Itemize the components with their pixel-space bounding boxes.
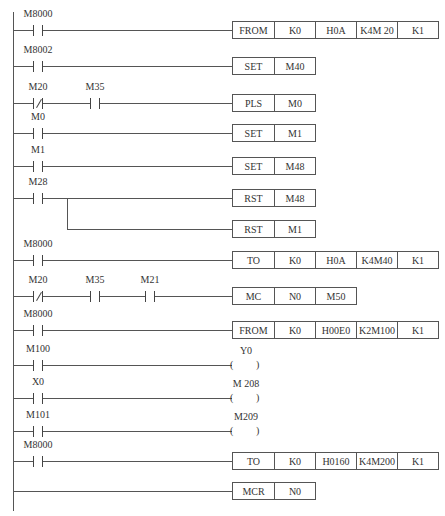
instruction-operand: M1 [274,221,315,237]
instruction-block-rst[interactable]: RSTM48 [232,189,316,207]
contact-bar-right [42,161,43,172]
contact-label: M8000 [24,308,53,319]
instruction-block-to[interactable]: TOK0H0160K4M200K1 [232,452,439,470]
contact-bar-left [145,291,146,302]
contact-bar-left [33,291,34,302]
contact-label: M1 [31,144,45,155]
normally-open-contact-icon[interactable] [33,393,43,404]
instruction-block-from[interactable]: FROMK0H00E0K2M100K1 [232,321,439,339]
contact-label: M100 [26,343,50,354]
contact-label: M8000 [24,439,53,450]
contact-bar-left [33,255,34,266]
instruction-operand: K4M 20 [356,22,397,38]
instruction-block-rst[interactable]: RSTM1 [232,220,316,238]
rung-wire [13,260,232,261]
instruction-operand: H0A [315,22,356,38]
contact-bar-right [42,456,43,467]
normally-open-contact-icon[interactable] [33,61,43,72]
contact-bar-right [42,255,43,266]
normally-open-contact-icon[interactable] [145,291,155,302]
instruction-block-set[interactable]: SETM40 [232,57,316,75]
contact-bar-left [33,325,34,336]
normally-open-contact-icon[interactable] [33,360,43,371]
instruction-mnemonic: PLS [233,95,274,111]
output-coil-icon[interactable]: () [230,359,262,371]
normally-open-contact-icon[interactable] [33,128,43,139]
instruction-operand: M40 [274,58,315,74]
rung-wire [13,398,232,399]
instruction-block-mcr[interactable]: MCRN0 [232,482,316,500]
instruction-block-pls[interactable]: PLSM0 [232,94,316,112]
coil-label: Y0 [240,345,252,356]
contact-bar-left [33,25,34,36]
output-coil-icon[interactable]: () [230,425,262,437]
contact-label: M0 [31,111,45,122]
normally-closed-contact-icon[interactable] [33,98,43,109]
instruction-block-from[interactable]: FROMK0H0AK4M 20K1 [232,21,439,39]
instruction-operand: H0160 [315,453,356,469]
contact-bar-right [42,291,43,302]
ladder-diagram: M8000FROMK0H0AK4M 20K1M8002SETM40M20M35P… [0,0,445,516]
coil-label: M 208 [233,378,259,389]
contact-bar-left [90,291,91,302]
normally-open-contact-icon[interactable] [33,255,43,266]
left-power-rail [13,12,14,511]
instruction-mnemonic: MC [233,288,274,304]
coil-close-paren: ) [256,392,259,403]
instruction-mnemonic: MCR [233,483,274,499]
instruction-block-set[interactable]: SETM48 [232,157,316,175]
contact-bar-right [42,98,43,109]
rung-wire [13,330,232,331]
contact-label: M35 [86,274,105,285]
contact-bar-right [154,291,155,302]
rung-wire [13,365,232,366]
normally-open-contact-icon[interactable] [33,193,43,204]
instruction-mnemonic: FROM [233,22,274,38]
contact-bar-right [42,325,43,336]
contact-bar-left [33,98,34,109]
instruction-mnemonic: RST [233,190,274,206]
contact-bar-left [33,128,34,139]
normally-closed-contact-icon[interactable] [33,291,43,302]
contact-label: M101 [26,409,50,420]
contact-bar-right [99,291,100,302]
instruction-operand: K4M200 [356,453,397,469]
instruction-mnemonic: TO [233,252,274,268]
instruction-mnemonic: SET [233,158,274,174]
coil-close-paren: ) [256,425,259,436]
normally-open-contact-icon[interactable] [33,161,43,172]
normally-open-contact-icon[interactable] [90,291,100,302]
instruction-mnemonic: RST [233,221,274,237]
rung-wire [13,296,232,297]
contact-bar-right [99,98,100,109]
contact-label: M35 [86,81,105,92]
instruction-operand: K1 [397,322,438,338]
contact-label: X0 [32,376,44,387]
instruction-operand: N0 [274,483,315,499]
instruction-mnemonic: SET [233,58,274,74]
rung-wire [13,461,232,462]
normally-open-contact-icon[interactable] [33,325,43,336]
normally-open-contact-icon[interactable] [33,25,43,36]
instruction-operand: M48 [274,190,315,206]
contact-bar-left [33,193,34,204]
instruction-operand: M48 [274,158,315,174]
contact-bar-left [33,161,34,172]
normally-open-contact-icon[interactable] [33,456,43,467]
contact-bar-right [42,128,43,139]
instruction-block-mc[interactable]: MCN0M50 [232,287,357,305]
contact-bar-right [42,393,43,404]
output-coil-icon[interactable]: () [230,392,262,404]
instruction-operand: K0 [274,22,315,38]
instruction-operand: M50 [315,288,356,304]
instruction-operand: K0 [274,252,315,268]
normally-open-contact-icon[interactable] [90,98,100,109]
normally-open-contact-icon[interactable] [33,426,43,437]
coil-close-paren: ) [256,359,259,370]
branch-wire [67,229,232,230]
instruction-block-set[interactable]: SETM1 [232,124,316,142]
instruction-block-to[interactable]: TOK0H0AK4M40K1 [232,251,439,269]
instruction-operand: H00E0 [315,322,356,338]
instruction-mnemonic: FROM [233,322,274,338]
contact-bar-left [33,456,34,467]
